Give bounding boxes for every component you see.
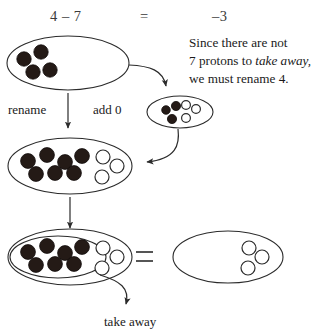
note-line-2: 7 protons to take away, xyxy=(189,53,311,68)
note-line-1: Since there are not xyxy=(189,35,288,50)
oval-add-zero-pair xyxy=(147,96,213,128)
label-take-away: take away xyxy=(104,314,157,329)
equation-left: 4 – 7 xyxy=(50,8,82,24)
note-line-2-prefix: 7 protons to xyxy=(189,53,255,68)
equation-right: –3 xyxy=(211,8,228,24)
label-rename: rename xyxy=(8,102,46,117)
bottom-equals-sign xyxy=(136,252,153,261)
connector-zeropair-to-renamed xyxy=(147,129,178,162)
diagram-canvas: 4 – 7 = –3 Since there are not 7 protons… xyxy=(0,0,336,333)
equation-equals: = xyxy=(140,8,149,24)
note-line-3: we must rename 4. xyxy=(189,71,289,86)
math-diagram: 4 – 7 = –3 Since there are not 7 protons… xyxy=(0,0,336,333)
connector-four-to-zeropair xyxy=(129,65,166,86)
note-line-2-emphasis: take away, xyxy=(255,53,311,68)
label-add-zero: add 0 xyxy=(93,102,122,117)
